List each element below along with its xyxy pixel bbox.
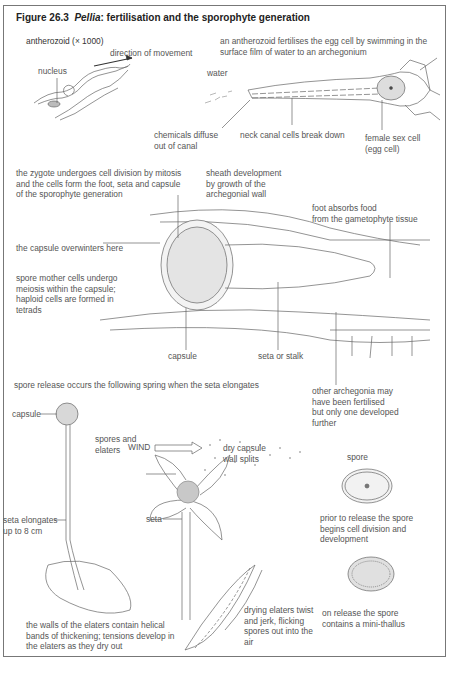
other-archegonia-label: other archegonia may have been fertilise…	[312, 386, 399, 428]
wind-arrow-drawing	[155, 442, 202, 454]
prior-release-text: prior to release the spore begins cell d…	[320, 513, 413, 545]
chemicals-label: chemicals diffuse out of canal	[154, 130, 218, 151]
seta-elongates-label: seta elongates up to 8 cm	[3, 515, 57, 536]
drying-elaters-text: drying elaters twist and jerk, flicking …	[244, 605, 313, 647]
overwinters-text: the capsule overwinters here	[16, 243, 123, 254]
spore-label: spore	[347, 452, 368, 463]
capsule-section-label: capsule	[168, 351, 197, 362]
zygote-text: the zygote undergoes cell division by mi…	[16, 168, 181, 200]
fertilisation-description: an antherozoid fertilises the egg cell b…	[220, 36, 430, 57]
diagram-drawings	[0, 0, 450, 677]
antherozoid-drawing	[34, 55, 132, 120]
female-cell-label: female sex cell (egg cell)	[365, 133, 420, 154]
capsule-label: capsule	[12, 409, 41, 420]
spores-elaters-label: spores and elaters	[95, 434, 136, 455]
nucleus-label: nucleus	[38, 66, 67, 77]
spore-mother-text: spore mother cells undergo meiosis withi…	[16, 273, 118, 315]
on-release-text: on release the spore contains a mini-tha…	[322, 608, 405, 629]
foot-label: foot absorbs food from the gametophyte t…	[312, 203, 418, 224]
release-heading: spore release occurs the following sprin…	[14, 380, 259, 391]
dry-capsule-label: dry capsule wall splits	[223, 443, 266, 464]
antherozoid-label: antherozoid (× 1000)	[26, 36, 104, 47]
neck-canal-label: neck canal cells break down	[240, 130, 345, 141]
seta-label: seta	[146, 514, 162, 525]
elaters-walls-text: the walls of the elaters contain helical…	[26, 620, 175, 652]
sheath-label: sheath development by growth of the arch…	[206, 168, 281, 200]
split-capsule-drawing	[146, 455, 230, 620]
direction-label: direction of movement	[110, 48, 192, 59]
seta-stalk-label: seta or stalk	[258, 351, 303, 362]
water-label: water	[207, 68, 227, 79]
archegonium-drawing	[205, 58, 440, 130]
